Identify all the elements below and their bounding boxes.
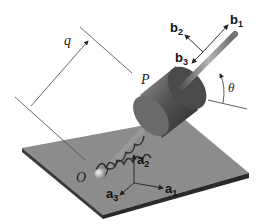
label-theta: θ <box>228 80 235 95</box>
label-p: P <box>140 72 150 87</box>
plate-top <box>22 118 249 215</box>
base-plate <box>22 118 249 219</box>
theta-angle: θ <box>208 74 247 109</box>
label-b1: b1 <box>230 12 243 29</box>
label-b2: b2 <box>170 20 183 37</box>
label-b3: b3 <box>175 50 188 67</box>
b-origin-b2 <box>185 35 203 52</box>
q-extension-line-p <box>80 27 132 73</box>
label-q: q <box>64 33 71 48</box>
diagram-canvas: q P O θ b1 b2 b3 a2 a1 <box>0 0 279 224</box>
theta-reference-line <box>208 100 247 109</box>
rod <box>182 30 239 87</box>
label-o: O <box>76 170 86 185</box>
theta-arc <box>220 74 224 103</box>
q-arrow <box>31 41 88 106</box>
ball-joint <box>95 169 106 180</box>
b-origin-b3 <box>192 52 203 63</box>
